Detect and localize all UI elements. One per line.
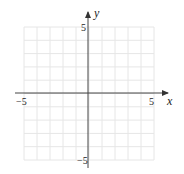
y-tick-max: 5 xyxy=(81,22,86,33)
x-tick-max: 5 xyxy=(149,96,154,107)
y-tick-min: −5 xyxy=(77,155,88,166)
y-axis-label: y xyxy=(93,6,100,20)
coordinate-plane: y x −5 5 5 −5 xyxy=(0,0,184,174)
x-axis-label: x xyxy=(166,94,173,108)
x-tick-min: −5 xyxy=(16,96,27,107)
